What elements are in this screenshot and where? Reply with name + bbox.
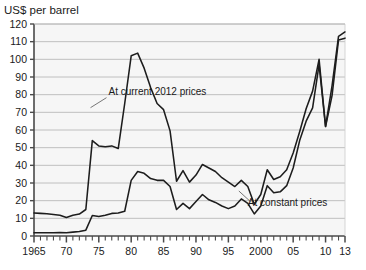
annotation-current-prices: At current 2012 prices bbox=[109, 86, 207, 97]
oil-price-chart: 0102030405060708090100110120196570758085… bbox=[0, 0, 366, 270]
y-tick-label-50: 50 bbox=[15, 141, 27, 153]
x-tick-label-2000: 2000 bbox=[249, 245, 273, 257]
x-tick-label-2005: 05 bbox=[287, 245, 299, 257]
x-tick-label-1975: 75 bbox=[93, 245, 105, 257]
y-tick-label-30: 30 bbox=[15, 177, 27, 189]
annotation-constant-prices: At constant prices bbox=[248, 197, 327, 208]
y-tick-label-120: 120 bbox=[9, 18, 27, 30]
y-tick-label-40: 40 bbox=[15, 159, 27, 171]
x-tick-label-1970: 70 bbox=[61, 245, 73, 257]
y-tick-label-10: 10 bbox=[15, 212, 27, 224]
x-tick-label-1990: 90 bbox=[190, 245, 202, 257]
y-tick-label-0: 0 bbox=[21, 230, 27, 242]
x-tick-label-1965: 1965 bbox=[22, 245, 46, 257]
y-tick-label-60: 60 bbox=[15, 124, 27, 136]
y-tick-label-80: 80 bbox=[15, 88, 27, 100]
x-tick-label-2010: 10 bbox=[320, 245, 332, 257]
y-tick-label-70: 70 bbox=[15, 106, 27, 118]
y-tick-label-20: 20 bbox=[15, 194, 27, 206]
y-tick-label-110: 110 bbox=[10, 35, 27, 47]
y-tick-label-90: 90 bbox=[15, 71, 27, 83]
x-tick-label-1985: 85 bbox=[158, 245, 170, 257]
y-tick-label-100: 100 bbox=[9, 53, 27, 65]
chart-svg: 0102030405060708090100110120196570758085… bbox=[0, 0, 366, 270]
x-tick-label-2013: 13 bbox=[339, 245, 351, 257]
x-tick-label-1995: 95 bbox=[223, 245, 235, 257]
x-tick-label-1980: 80 bbox=[125, 245, 137, 257]
chart-title: US$ per barrel bbox=[4, 4, 79, 16]
